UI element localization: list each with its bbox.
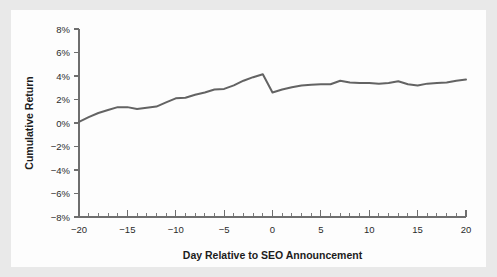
y-axis-title: Cumulative Return (23, 76, 35, 169)
x-tick-label-6: 10 (364, 224, 375, 235)
y-tick-label-2: 4% (56, 71, 70, 82)
x-tick-label-4: 0 (270, 224, 275, 235)
x-tick-label-1: −15 (119, 224, 135, 235)
x-tick-label-0: −20 (71, 224, 87, 235)
y-axis-ticks (74, 29, 79, 217)
figure-frame: 8%6%4%2%0%−2%−4%−6%−8% −20−15−10−5051015… (0, 0, 497, 277)
y-tick-label-1: 6% (56, 47, 70, 58)
y-tick-label-0: 8% (56, 24, 70, 35)
x-axis-tick-labels: −20−15−10−505101520 (71, 224, 471, 235)
y-tick-label-8: −8% (51, 212, 71, 223)
x-tick-label-5: 5 (318, 224, 323, 235)
chart-card: 8%6%4%2%0%−2%−4%−6%−8% −20−15−10−5051015… (11, 10, 486, 267)
y-tick-label-3: 2% (56, 94, 70, 105)
x-axis-title: Day Relative to SEO Announcement (183, 249, 363, 261)
x-tick-label-8: 20 (461, 224, 472, 235)
y-axis-tick-labels: 8%6%4%2%0%−2%−4%−6%−8% (51, 24, 71, 223)
cumulative-return-line-chart: 8%6%4%2%0%−2%−4%−6%−8% −20−15−10−5051015… (11, 10, 486, 267)
y-tick-label-5: −2% (51, 141, 71, 152)
y-tick-label-4: 0% (56, 118, 70, 129)
y-tick-label-7: −6% (51, 188, 71, 199)
x-tick-label-7: 15 (412, 224, 423, 235)
x-tick-label-3: −5 (219, 224, 230, 235)
x-tick-label-2: −10 (168, 224, 184, 235)
cumulative-return-series-line (79, 74, 466, 122)
y-tick-label-6: −4% (51, 165, 71, 176)
